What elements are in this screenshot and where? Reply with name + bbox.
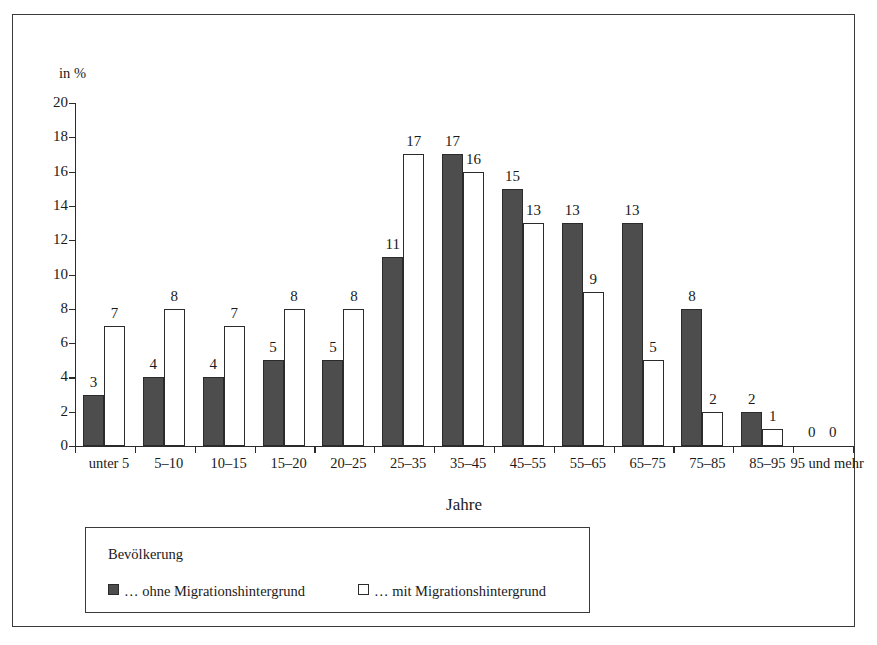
bar-ohne-migrationshintergrund: 8 — [681, 309, 702, 446]
legend-entry-mit-migrationshintergrund: … mit Migrationshintergrund — [358, 583, 546, 600]
bar-ohne-migrationshintergrund: 13 — [562, 223, 583, 446]
x-axis-tick — [733, 446, 734, 453]
bar-ohne-migrationshintergrund: 4 — [203, 377, 224, 446]
x-axis-tick — [434, 446, 435, 453]
y-axis-tick-label: 2 — [28, 404, 68, 419]
bar-mit-migrationshintergrund: 5 — [643, 360, 664, 446]
y-axis-tick-label: 6 — [28, 335, 68, 350]
y-axis-tick-label: 18 — [28, 129, 68, 144]
y-axis-tick-label: 10 — [28, 267, 68, 282]
x-axis-tick — [75, 446, 76, 453]
bar-value-label: 8 — [688, 289, 696, 304]
bar-group: 58 — [255, 103, 315, 446]
legend-entry-label: … mit Migrationshintergrund — [374, 583, 546, 599]
bar-mit-migrationshintergrund: 1 — [762, 429, 783, 446]
legend-swatch-dark-square-icon — [108, 584, 119, 595]
bar-ohne-migrationshintergrund: 4 — [143, 377, 164, 446]
y-axis-tick-label: 0 — [28, 438, 68, 453]
bar-value-label: 4 — [209, 357, 217, 372]
legend-entry-ohne-migrationshintergrund: … ohne Migrationshintergrund — [108, 583, 305, 600]
legend-title: Bevölkerung — [108, 546, 183, 563]
bar-ohne-migrationshintergrund: 5 — [322, 360, 343, 446]
bar-ohne-migrationshintergrund: 2 — [741, 412, 762, 446]
bar-value-label: 8 — [171, 289, 179, 304]
bar-group: 37 — [75, 103, 135, 446]
x-axis-title: Jahre — [75, 495, 853, 515]
y-axis-tick-label: 16 — [28, 164, 68, 179]
y-axis-tick-label: 20 — [28, 95, 68, 110]
bar-group: 135 — [614, 103, 674, 446]
bar-mit-migrationshintergrund: 8 — [164, 309, 185, 446]
y-axis-tick-label: 14 — [28, 198, 68, 213]
bar-ohne-migrationshintergrund: 3 — [83, 395, 104, 446]
x-axis-tick — [135, 446, 136, 453]
bar-value-label: 13 — [625, 203, 640, 218]
bar-value-label: 16 — [466, 152, 481, 167]
bar-mit-migrationshintergrund: 9 — [583, 292, 604, 446]
plot-area: 02468101214161820 3748475858111717161513… — [75, 103, 853, 446]
bar-group: 139 — [554, 103, 614, 446]
bar-group: 21 — [733, 103, 793, 446]
x-axis-tick — [793, 446, 794, 453]
x-axis-tick — [554, 446, 555, 453]
x-axis-tick — [853, 446, 854, 453]
bar-value-label: 13 — [565, 203, 580, 218]
bar-value-label: 7 — [111, 306, 119, 321]
bar-value-label: 11 — [385, 237, 399, 252]
bar-ohne-migrationshintergrund: 11 — [382, 257, 403, 446]
bar-group: 47 — [195, 103, 255, 446]
bar-value-label: 15 — [505, 169, 520, 184]
bar-value-label: 7 — [230, 306, 238, 321]
bar-ohne-migrationshintergrund: 5 — [263, 360, 284, 446]
x-axis-tick — [673, 446, 674, 453]
x-axis-tick — [374, 446, 375, 453]
x-axis-category-label: 95 und mehr — [784, 455, 870, 472]
bar-mit-migrationshintergrund: 2 — [702, 412, 723, 446]
bar-value-label: 5 — [329, 340, 337, 355]
bar-group: 1716 — [434, 103, 494, 446]
bar-value-label: 4 — [150, 357, 158, 372]
bar-group: 48 — [135, 103, 195, 446]
bar-value-label: 0 — [829, 425, 837, 440]
bar-mit-migrationshintergrund: 13 — [523, 223, 544, 446]
x-axis-tick — [614, 446, 615, 453]
bar-group: 58 — [314, 103, 374, 446]
x-axis-tick — [494, 446, 495, 453]
bar-mit-migrationshintergrund: 7 — [104, 326, 125, 446]
bar-value-label: 1 — [769, 409, 777, 424]
bar-ohne-migrationshintergrund: 15 — [502, 189, 523, 446]
bar-ohne-migrationshintergrund: 17 — [442, 154, 463, 446]
x-axis-tick — [255, 446, 256, 453]
bar-value-label: 17 — [445, 134, 460, 149]
x-axis-tick — [195, 446, 196, 453]
bar-group: 82 — [673, 103, 733, 446]
y-axis-tick-label: 4 — [28, 369, 68, 384]
bar-value-label: 8 — [290, 289, 298, 304]
bar-value-label: 13 — [526, 203, 541, 218]
bar-value-label: 9 — [590, 272, 598, 287]
bar-mit-migrationshintergrund: 7 — [224, 326, 245, 446]
bar-ohne-migrationshintergrund: 13 — [622, 223, 643, 446]
bar-group: 1513 — [494, 103, 554, 446]
bar-value-label: 5 — [269, 340, 277, 355]
x-axis-tick — [314, 446, 315, 453]
bar-group: 00 — [793, 103, 853, 446]
bar-mit-migrationshintergrund: 17 — [403, 154, 424, 446]
bar-group: 1117 — [374, 103, 434, 446]
bar-value-label: 17 — [406, 134, 421, 149]
y-axis-tick-label: 12 — [28, 232, 68, 247]
y-axis-unit-label: in % — [59, 65, 86, 82]
bar-value-label: 5 — [649, 340, 657, 355]
x-axis-line — [75, 446, 853, 447]
legend-entry-label: … ohne Migrationshintergrund — [124, 583, 305, 599]
legend: Bevölkerung … ohne Migrationshintergrund… — [85, 527, 590, 613]
bar-mit-migrationshintergrund: 8 — [284, 309, 305, 446]
y-axis-tick-label: 8 — [28, 301, 68, 316]
legend-swatch-white-square-icon — [358, 584, 369, 595]
bar-value-label: 0 — [808, 425, 816, 440]
bar-mit-migrationshintergrund: 8 — [343, 309, 364, 446]
bar-value-label: 2 — [748, 392, 756, 407]
bar-value-label: 8 — [350, 289, 358, 304]
bar-value-label: 2 — [709, 392, 717, 407]
bar-mit-migrationshintergrund: 16 — [463, 172, 484, 446]
